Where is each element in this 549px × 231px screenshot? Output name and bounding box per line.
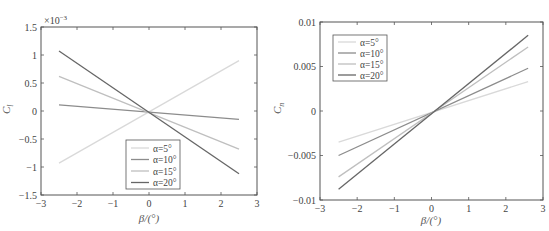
y-tick-label: 1.5 [25, 22, 38, 33]
right-x-axis-label: β/(°) [420, 214, 442, 227]
right-y-axis-label: Cn [271, 103, 286, 114]
legend-label: α=20° [153, 178, 177, 188]
x-tick-label: −2 [352, 203, 363, 214]
right-chart-cn: −3−2−10123−0.01−0.00500.0050.01 Cn β/(°)… [271, 17, 546, 228]
left-chart-cl: −3−2−10123−1.5−1−0.500.511.5 ×10−3 Cl β/… [0, 14, 260, 225]
y-tick-label: −1.5 [19, 190, 37, 201]
legend-label: α=15° [153, 167, 177, 177]
x-tick-label: 2 [503, 203, 508, 214]
figure: −3−2−10123−1.5−1−0.500.511.5 ×10−3 Cl β/… [0, 0, 549, 231]
y-tick-label: 0.01 [299, 17, 317, 28]
y-tick-label: 0.5 [25, 78, 38, 89]
legend-label: α=10° [360, 49, 384, 59]
legend-label: α=10° [153, 155, 177, 165]
right-ticks: −3−2−10123−0.01−0.00500.0050.01 [288, 17, 546, 215]
left-y-axis-label: Cl [0, 104, 15, 114]
legend-label: α=5° [153, 144, 172, 154]
y-tick-label: 0 [32, 106, 37, 117]
x-tick-label: −3 [36, 198, 47, 209]
x-tick-label: 0 [429, 203, 434, 214]
left-multiplier: ×10−3 [44, 14, 68, 26]
y-tick-label: −0.5 [19, 134, 37, 145]
y-tick-label: −0.005 [288, 150, 316, 161]
x-tick-label: 1 [466, 203, 471, 214]
legend-label: α=20° [360, 71, 384, 81]
x-tick-label: −1 [108, 198, 119, 209]
x-tick-label: −2 [72, 198, 83, 209]
y-tick-label: 1 [32, 50, 37, 61]
x-tick-label: 2 [219, 198, 224, 209]
y-tick-label: −0.01 [293, 195, 316, 206]
x-tick-label: 3 [255, 198, 260, 209]
legend-label: α=5° [360, 38, 379, 48]
x-tick-label: −3 [315, 203, 326, 214]
left-legend: α=5°α=10°α=15°α=20° [126, 140, 180, 189]
x-tick-label: −1 [389, 203, 400, 214]
left-x-axis-label: β/(°) [138, 212, 160, 225]
y-tick-label: 0.005 [294, 61, 317, 72]
x-tick-label: 0 [147, 198, 152, 209]
y-tick-label: −1 [26, 162, 37, 173]
x-tick-label: 3 [541, 203, 546, 214]
legend-label: α=15° [360, 60, 384, 70]
right-legend: α=5°α=10°α=15°α=20° [333, 35, 387, 81]
x-tick-label: 1 [183, 198, 188, 209]
y-tick-label: 0 [311, 106, 316, 117]
